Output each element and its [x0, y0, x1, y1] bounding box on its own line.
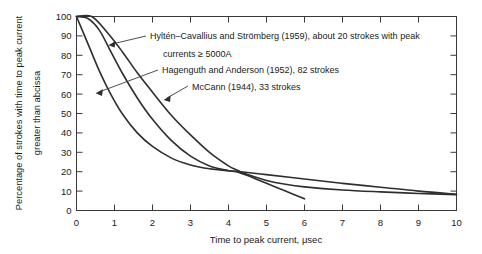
- annotation-mccann: McCann (1944), 33 strokes: [192, 82, 301, 92]
- x-tick-label: 3: [188, 217, 193, 228]
- x-tick-label: 4: [226, 217, 231, 228]
- y-tick-label: 40: [61, 127, 72, 138]
- x-tick-label: 5: [264, 217, 269, 228]
- curve-series-1: [77, 17, 305, 199]
- annotation-hylten-line1: Hyltén–Cavallius and Strömberg (1959), a…: [150, 31, 420, 41]
- curve-series-0: [77, 15, 457, 194]
- y-axis-title-line1: Percentage of strokes with time to peak …: [14, 15, 24, 210]
- y-axis-title-line2: greater than abcissa: [32, 70, 42, 155]
- x-tick-label: 7: [340, 217, 345, 228]
- x-tick-label: 0: [74, 217, 79, 228]
- x-tick-label: 8: [378, 217, 383, 228]
- curve-series-2: [77, 17, 457, 195]
- plot-frame: [77, 17, 457, 211]
- x-tick-label: 2: [150, 217, 155, 228]
- y-tick-label: 20: [61, 166, 72, 177]
- y-axis-tick-labels: 0102030405060708090100: [56, 11, 72, 216]
- y-tick-label: 30: [61, 147, 72, 158]
- y-tick-label: 10: [61, 186, 72, 197]
- y-tick-label: 100: [56, 11, 72, 22]
- y-tick-label: 50: [61, 108, 72, 119]
- y-tick-label: 70: [61, 69, 72, 80]
- x-tick-label: 6: [302, 217, 307, 228]
- x-axis-title: Time to peak current, μsec: [210, 234, 323, 245]
- x-axis-tick-labels: 012345678910: [74, 217, 462, 228]
- annotation-hylten-line2: currents ≥ 5000A: [163, 49, 231, 59]
- y-tick-label: 80: [61, 50, 72, 61]
- x-tick-label: 10: [451, 217, 462, 228]
- y-tick-label: 60: [61, 89, 72, 100]
- chart-canvas: 0102030405060708090100 012345678910 Hylt…: [0, 0, 482, 254]
- x-axis-ticks: [77, 17, 457, 211]
- leader-line-hylten: [112, 36, 146, 44]
- arrowhead-hylten: [109, 41, 116, 48]
- arrowhead-hagenguth: [96, 89, 103, 96]
- y-tick-label: 90: [61, 30, 72, 41]
- annotation-hagenguth: Hagenguth and Anderson (1952), 82 stroke…: [162, 65, 340, 75]
- x-tick-label: 1: [112, 217, 117, 228]
- chart-figure: 0102030405060708090100 012345678910 Hylt…: [0, 0, 482, 254]
- arrowhead-mccann: [164, 95, 171, 102]
- x-tick-label: 9: [416, 217, 421, 228]
- y-axis-ticks: [77, 17, 457, 211]
- y-tick-label: 0: [66, 205, 71, 216]
- data-curves: [77, 15, 457, 199]
